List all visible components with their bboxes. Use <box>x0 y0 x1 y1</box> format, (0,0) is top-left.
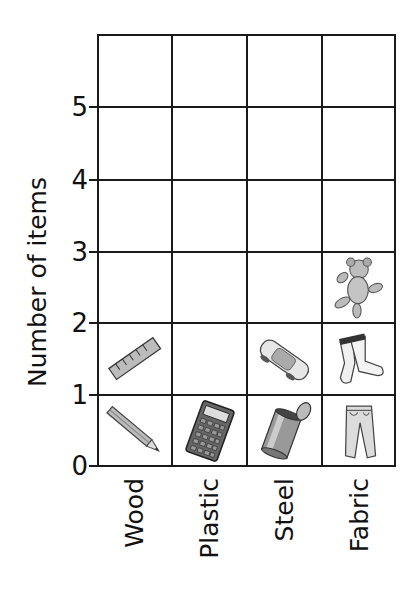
calculator-icon <box>179 400 241 462</box>
pictogram-ruler <box>99 324 171 394</box>
y-tick-0 <box>89 465 99 467</box>
y-tick-label-2: 2 <box>58 310 88 336</box>
pencil-icon <box>104 400 166 462</box>
y-tick-2 <box>89 322 99 324</box>
jeans-icon <box>328 400 390 462</box>
y-tick-label-1: 1 <box>58 382 88 408</box>
x-label-steel: Steel <box>270 478 299 541</box>
pictogram-pencil <box>99 396 171 466</box>
y-tick-label-4: 4 <box>58 167 88 193</box>
y-axis-label: Number of items <box>23 177 52 387</box>
toy-car-icon <box>254 328 316 390</box>
pictogram-jeans <box>323 396 395 466</box>
y-tick-1 <box>89 394 99 396</box>
pictogram-teddy-bear <box>323 253 395 323</box>
pictogram-socks <box>323 324 395 394</box>
y-tick-label-0: 0 <box>58 453 88 479</box>
teddy-bear-icon <box>328 257 390 319</box>
x-label-wood: Wood <box>120 478 149 548</box>
column-divider-1 <box>171 34 173 467</box>
socks-icon <box>328 328 390 390</box>
tin-can-icon <box>254 400 316 462</box>
y-tick-4 <box>89 179 99 181</box>
y-tick-label-5: 5 <box>58 94 88 120</box>
pictogram-toy-car <box>249 324 321 394</box>
ruler-icon <box>104 328 166 390</box>
x-label-fabric: Fabric <box>345 478 374 552</box>
y-tick-3 <box>89 251 99 253</box>
x-label-plastic: Plastic <box>195 478 224 559</box>
column-divider-2 <box>246 34 248 467</box>
pictogram-calculator <box>174 396 246 466</box>
y-tick-label-3: 3 <box>58 239 88 265</box>
pictogram-tin-can <box>249 396 321 466</box>
y-tick-5 <box>89 106 99 108</box>
